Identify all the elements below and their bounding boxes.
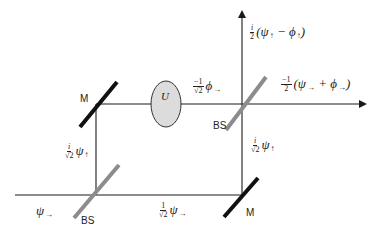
bottom-horizontal-state-label: 1√2ψ→ xyxy=(159,202,186,220)
right-arrow-icon: → xyxy=(307,83,315,92)
top-horizontal-state-label: −1√2ϕ→ xyxy=(193,78,221,96)
coefficient-fraction: −1√2 xyxy=(193,78,204,96)
output-right-state-label: −12(ψ→ + ϕ→) xyxy=(281,76,350,94)
coefficient-fraction: −12 xyxy=(281,76,292,94)
unitary-label: U xyxy=(161,91,169,102)
mirror-bottom-right-label: M xyxy=(246,208,254,218)
up-arrow-icon: ↑ xyxy=(270,144,274,153)
right-arrow-icon: → xyxy=(338,83,346,92)
coefficient-fraction: 1√2 xyxy=(159,202,167,220)
coefficient-fraction: i2 xyxy=(250,24,254,42)
coefficient-fraction: i√2 xyxy=(65,143,73,161)
interferometer-diagram: M M BS BS U ψ→ i√2ψ↑ 1√2ψ→ i√2ψ↑ −1√2ϕ→ … xyxy=(0,0,373,238)
right-arrow-icon: → xyxy=(45,210,53,219)
mirror-top-left-label: M xyxy=(80,94,88,104)
right-arrow-icon: → xyxy=(213,85,221,94)
up-arrow-icon: ↑ xyxy=(84,150,88,159)
psi-symbol: ψ xyxy=(36,203,44,218)
left-vertical-state-label: i√2ψ↑ xyxy=(65,143,88,161)
diagram-graphics xyxy=(0,0,373,238)
right-vertical-state-label: i√2ψ↑ xyxy=(251,137,274,155)
beam-splitter-top-label: BS xyxy=(213,121,226,131)
beam-splitter-bottom-label: BS xyxy=(81,216,94,226)
right-arrow-icon: → xyxy=(178,209,186,218)
output-up-state-label: i2(ψ↑ − ϕ↑) xyxy=(250,24,305,42)
input-state-label: ψ→ xyxy=(36,204,53,219)
coefficient-fraction: i√2 xyxy=(251,137,259,155)
unitary-ellipse xyxy=(151,81,181,127)
